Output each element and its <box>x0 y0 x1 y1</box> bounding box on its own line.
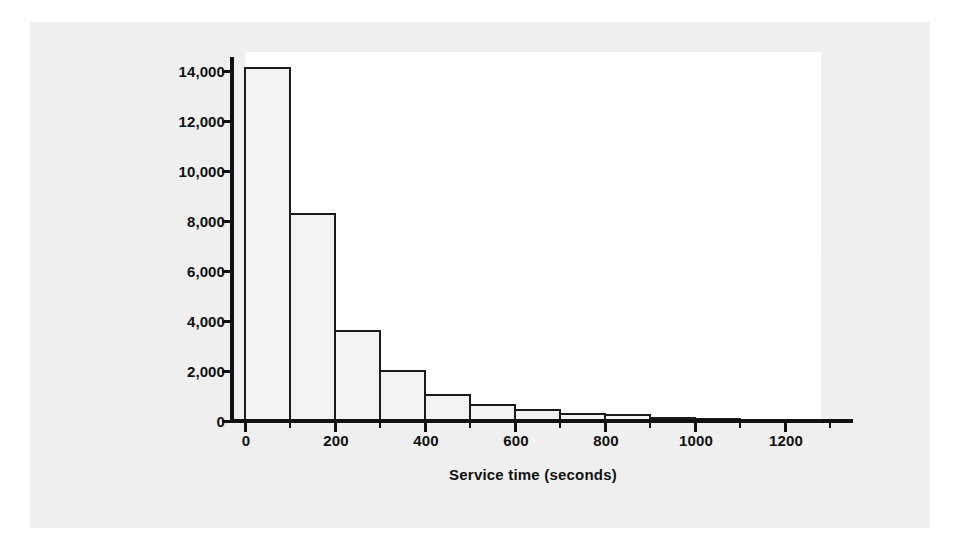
figure-canvas: 14,000 12,000 10,000 8,000 6,000 4,000 2… <box>0 0 959 556</box>
histogram-bar <box>335 331 380 421</box>
histogram-bar <box>470 405 515 421</box>
histogram-bar <box>245 68 290 421</box>
histogram-bar <box>515 410 560 421</box>
histogram-plot <box>0 0 959 556</box>
bars-group <box>245 68 785 421</box>
histogram-bar <box>425 395 470 421</box>
histogram-bar <box>290 214 335 421</box>
histogram-bar <box>380 371 425 421</box>
